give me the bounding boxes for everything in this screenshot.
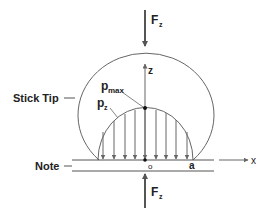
z-axis-label: z xyxy=(148,65,153,76)
force-arrow-bottom: F z xyxy=(145,174,163,208)
p-z-subscript: z xyxy=(104,104,108,111)
force-top-label: F xyxy=(151,13,158,27)
force-top-subscript: z xyxy=(159,21,163,28)
x-axis-label: x xyxy=(251,155,256,166)
diagram-canvas: F z z p max p z o a x Stick Tip xyxy=(0,0,270,220)
origin-point xyxy=(143,158,147,162)
p-max-leader xyxy=(122,92,143,107)
origin-label: o xyxy=(148,162,153,171)
stick-tip-label: Stick Tip xyxy=(13,92,59,104)
force-arrow-top: F z xyxy=(145,10,163,46)
contact-radius-label: a xyxy=(189,160,195,171)
force-bottom-subscript: z xyxy=(159,193,163,200)
force-bottom-label: F xyxy=(151,185,158,199)
z-axis: z xyxy=(145,64,153,160)
p-max-point xyxy=(143,106,147,110)
p-max-subscript: max xyxy=(108,86,125,95)
p-z-leader xyxy=(110,108,118,118)
x-axis: x xyxy=(219,155,256,166)
note-label: Note xyxy=(35,160,59,172)
